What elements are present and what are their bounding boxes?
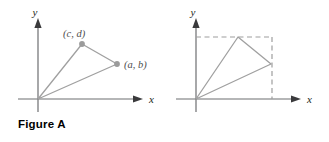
figure-b-y-axis-label: y	[190, 6, 196, 18]
figure-b-panel: y x Figure B	[165, 0, 329, 142]
figure-a-x-axis-label: x	[148, 93, 154, 105]
figure-b-y-axis-arrow	[192, 18, 199, 28]
figure-a-x-axis-arrow	[133, 95, 143, 102]
figure-a-point-cd-dot	[79, 41, 85, 47]
figure-a-point-ab-dot	[114, 61, 120, 67]
figure-b-x-axis-arrow	[291, 95, 301, 102]
figure-a-point-cd-label: (c, d)	[63, 28, 86, 40]
figure-b-triangle	[196, 37, 271, 99]
figure-pair-illustration: y x (c, d) (a, b) Figure A y x Figure B	[0, 0, 329, 142]
figure-a-y-axis-label: y	[32, 6, 38, 18]
figure-b-x-axis-label: x	[306, 93, 312, 105]
figure-a-panel: y x (c, d) (a, b) Figure A	[0, 0, 165, 142]
figure-a-point-ab-label: (a, b)	[124, 59, 147, 71]
figure-b-graphic: y x	[165, 0, 329, 118]
figure-a-triangle	[38, 44, 117, 99]
figure-a-y-axis-arrow	[34, 18, 41, 28]
figure-a-graphic: y x (c, d) (a, b)	[0, 0, 165, 118]
figure-a-caption: Figure A	[18, 118, 66, 130]
